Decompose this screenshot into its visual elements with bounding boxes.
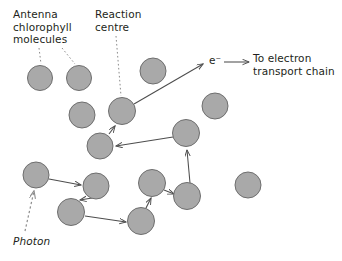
label-electron: e⁻ [209, 54, 221, 67]
antenna-molecule-15 [235, 172, 261, 198]
antenna-molecule-2 [67, 66, 92, 91]
leader-reaction-to-m5-icon [116, 36, 121, 96]
antenna-molecule-1 [28, 66, 53, 91]
antenna-molecule-3 [140, 58, 166, 84]
antenna-molecule-14 [128, 208, 155, 235]
arrow-m7-to-m5-icon [109, 126, 115, 134]
antenna-molecule-6 [202, 93, 228, 119]
antenna-molecule-7 [87, 133, 113, 159]
leader-antenna-to-m2-icon [62, 48, 75, 64]
label-to-electron-transport-chain: To electron transport chain [253, 52, 335, 77]
arrow-m8-to-m7-icon [116, 137, 173, 146]
arrow-m13-to-m8-icon [187, 150, 190, 183]
arrow-photon-to-m9-icon [25, 191, 34, 231]
arrow-m10-to-m11-icon [80, 198, 92, 200]
photosynthesis-light-harvesting-diagram: Antenna chlorophyll molecules Reaction c… [0, 0, 342, 261]
antenna-molecule-8 [173, 120, 200, 147]
antenna-molecule-4 [69, 102, 95, 128]
photon-arrow-group [25, 191, 34, 231]
antenna-molecule-10 [83, 173, 109, 199]
label-antenna-chlorophyll-molecules: Antenna chlorophyll molecules [13, 8, 72, 46]
arrow-m12-to-m13-icon [164, 190, 174, 194]
antenna-molecule-11 [58, 199, 85, 226]
label-reaction-centre: Reaction centre [95, 8, 141, 33]
arrow-m9-to-m10-icon [49, 179, 81, 185]
antenna-molecule-13 [174, 183, 201, 210]
arrow-m14-to-m12-icon [146, 198, 151, 208]
label-photon: Photon [13, 235, 50, 248]
reaction-centre-molecule [109, 98, 136, 125]
leader-antenna-to-m1-icon [39, 48, 41, 64]
antenna-molecule-9 [23, 162, 49, 188]
antenna-molecule-12 [139, 170, 166, 197]
arrow-m11-to-m14-icon [85, 216, 126, 222]
chlorophyll-molecule-group [23, 58, 261, 235]
